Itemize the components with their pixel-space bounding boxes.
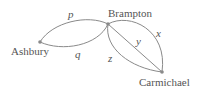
edge-p bbox=[40, 20, 108, 42]
label-edge-x: x bbox=[155, 27, 161, 39]
label-brampton: Brampton bbox=[108, 7, 152, 19]
graph-diagram: Ashbury Brampton Carmichael p q x y z bbox=[0, 0, 198, 92]
label-edge-y: y bbox=[135, 35, 141, 47]
node-carmichael bbox=[160, 70, 164, 74]
label-ashbury: Ashbury bbox=[11, 45, 49, 57]
label-carmichael: Carmichael bbox=[139, 76, 190, 88]
label-edge-z: z bbox=[107, 52, 113, 64]
label-edge-p: p bbox=[67, 8, 74, 20]
node-ashbury bbox=[38, 40, 42, 44]
label-edge-q: q bbox=[75, 48, 81, 60]
edge-q bbox=[40, 24, 108, 47]
node-brampton bbox=[106, 22, 110, 26]
